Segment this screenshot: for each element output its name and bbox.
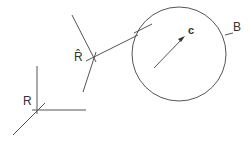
frame-r-hat-label: R̂ <box>74 49 83 64</box>
center-arrow <box>154 39 182 68</box>
frame-r-label: R <box>23 94 32 108</box>
diagram-canvas: R R̂ B c <box>0 0 251 144</box>
ball-b-label: B <box>233 20 241 34</box>
frame-r-hat-axis-3-ext <box>134 24 152 33</box>
center-label: c <box>188 24 194 36</box>
frame-r-hat-axis-3 <box>86 35 138 61</box>
arrowhead-icon <box>178 36 185 42</box>
ball-b <box>132 7 226 101</box>
frame-r-hat-axis-2 <box>83 52 96 92</box>
ball-b-label-leader <box>225 33 233 35</box>
